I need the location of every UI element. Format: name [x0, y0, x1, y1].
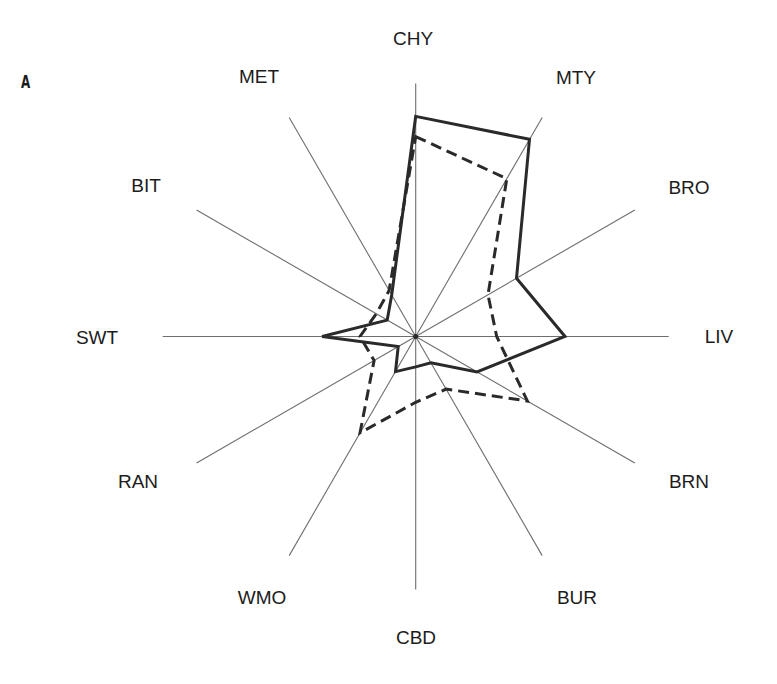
axis-line-bit [197, 210, 416, 337]
axis-label-brn: BRN [669, 471, 709, 492]
axis-line-bro [416, 210, 635, 337]
center-point [413, 334, 418, 339]
radar-chart: CHYMTYBROLIVBRNBURCBDWMORANSWTBITMET [0, 0, 777, 684]
axis-line-met [289, 117, 416, 336]
axis-label-bit: BIT [131, 175, 161, 196]
axis-label-chy: CHY [393, 28, 433, 49]
axis-label-mty: MTY [556, 67, 596, 88]
axis-label-ran: RAN [118, 471, 158, 492]
axis-label-wmo: WMO [238, 587, 287, 608]
axis-label-liv: LIV [705, 326, 734, 347]
axis-label-bro: BRO [668, 177, 709, 198]
series-solid [322, 116, 565, 372]
axis-line-bur [416, 337, 543, 556]
axis-line-ran [197, 337, 416, 464]
axis-labels: CHYMTYBROLIVBRNBURCBDWMORANSWTBITMET [76, 28, 734, 648]
axis-label-cbd: CBD [396, 627, 436, 648]
axis-label-bur: BUR [557, 587, 597, 608]
axis-line-mty [416, 117, 543, 336]
axis-label-met: MET [239, 66, 280, 87]
axis-label-swt: SWT [76, 327, 119, 348]
